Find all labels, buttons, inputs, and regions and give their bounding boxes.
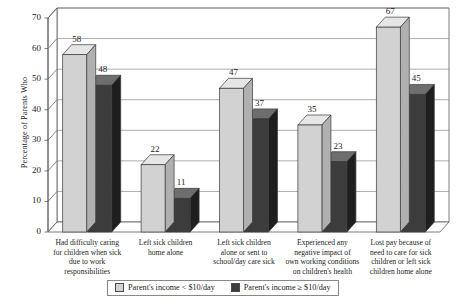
bar-value-label: 45 [405,73,427,83]
category-label-line: Experienced any [284,238,360,248]
legend-entry: Parent's income < $10/day [115,283,215,292]
category-label-line: due to work responsibilities [49,257,125,276]
category-label-line: alone or sent to [206,248,282,258]
bar-value-label: 11 [170,177,192,187]
category-label-line: negative impact of [284,248,360,258]
category-label-line: Left sick children [206,238,282,248]
category-label-line: Lost pay because of [363,238,439,248]
category-label-line: own working conditions [284,257,360,267]
bar-value-label: 35 [301,104,323,114]
category-label-line: for children when sick [49,248,125,258]
bar-value-label: 58 [66,34,88,44]
legend-label: Parent's income ≥ $10/day [244,283,331,292]
x-axis-category-label: Left sick childrenhome alone [126,238,204,280]
x-axis-category-labels: Had difficulty caringfor children when s… [48,238,440,280]
x-axis-category-label: Lost pay because ofneed to care for sick… [362,238,440,280]
bar-value-label: 23 [327,141,349,151]
legend-entry: Parent's income ≥ $10/day [231,283,331,292]
x-axis-category-label: Experienced anynegative impact ofown wor… [283,238,361,280]
bar-value-label: 47 [223,67,245,77]
bar-chart: Percentage of Parents Who 01020304050607… [0,0,457,305]
category-label-line: home alone [127,248,203,258]
legend-swatch-light [115,283,124,292]
bar-value-label: 37 [249,98,271,108]
category-label-line: children or left sick [363,257,439,267]
category-label-line: school/day care sick [206,257,282,267]
x-axis-category-label: Left sick childrenalone or sent toschool… [205,238,283,280]
x-axis-category-label: Had difficulty caringfor children when s… [48,238,126,280]
chart-legend: Parent's income < $10/dayParent's income… [107,280,339,296]
bar-value-label: 22 [144,144,166,154]
bar-value-label: 67 [379,6,401,16]
category-label-line: Left sick children [127,238,203,248]
category-label-line: need to care for sick [363,248,439,258]
bar-value-label: 48 [92,64,114,74]
category-label-line: Had difficulty caring [49,238,125,248]
category-label-line: on children's health [284,267,360,277]
legend-swatch-dark [231,283,240,292]
legend-label: Parent's income < $10/day [128,283,215,292]
category-label-line: children home alone [363,267,439,277]
